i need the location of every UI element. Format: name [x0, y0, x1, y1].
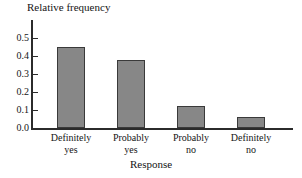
x-axis-category-label: Definitelyno: [221, 132, 281, 156]
category-label-line: Definitely: [221, 132, 281, 144]
x-axis-title: Response: [0, 158, 302, 171]
plot-area: 0.00.10.20.30.40.5 DefinitelyyesProbably…: [31, 20, 293, 128]
category-label-line: yes: [41, 144, 101, 156]
y-axis-tick-label: 0.3: [17, 68, 30, 79]
y-axis-tick-label: 0.5: [17, 32, 30, 43]
y-axis-tick: 0.4: [33, 56, 38, 57]
y-axis-tick-label: 0.1: [17, 104, 30, 115]
y-axis-tick-label: 0.2: [17, 86, 30, 97]
category-label-line: Probably: [101, 132, 161, 144]
y-axis-tick: 0.5: [33, 38, 38, 39]
category-label-line: yes: [101, 144, 161, 156]
category-label-line: no: [221, 144, 281, 156]
bar: [237, 117, 265, 128]
x-axis-line: [31, 128, 293, 130]
bar: [177, 106, 205, 129]
y-axis-tick-label: 0.4: [17, 50, 30, 61]
bar: [117, 60, 145, 128]
bar: [57, 47, 85, 128]
category-label-line: no: [161, 144, 221, 156]
y-axis-tick: 0.2: [33, 92, 38, 93]
x-axis-category-label: Probablyno: [161, 132, 221, 156]
x-axis-category-label: Probablyyes: [101, 132, 161, 156]
y-axis-tick: 0.3: [33, 74, 38, 75]
relative-frequency-bar-chart: Relative frequency 0.00.10.20.30.40.5 De…: [0, 0, 302, 178]
y-axis-tick-label: 0.0: [17, 122, 30, 133]
y-axis-tick: 0.0: [33, 128, 38, 129]
y-axis-tick: 0.1: [33, 110, 38, 111]
category-label-line: Probably: [161, 132, 221, 144]
category-label-line: Definitely: [41, 132, 101, 144]
x-axis-category-label: Definitelyyes: [41, 132, 101, 156]
y-axis-title: Relative frequency: [27, 1, 110, 14]
